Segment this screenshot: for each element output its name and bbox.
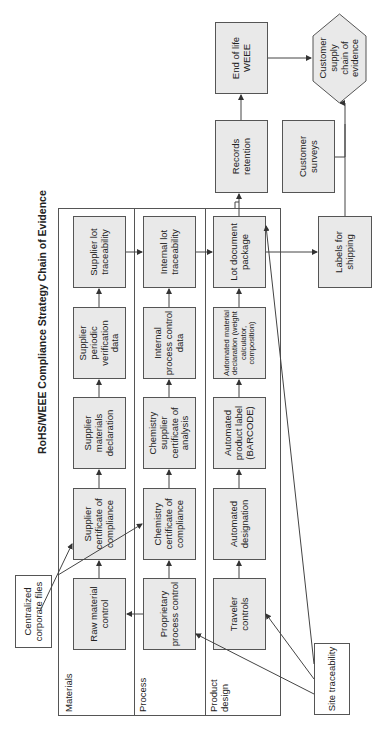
diagram-canvas: RoHS/WEEE Compliance Strategy Chain of E… [0, 0, 384, 734]
connector-lines [0, 0, 384, 734]
